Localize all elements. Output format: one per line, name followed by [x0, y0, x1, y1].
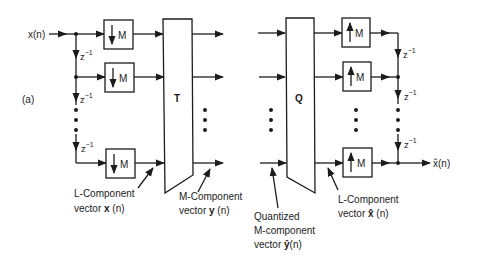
svg-text:z−1: z−1	[80, 92, 93, 105]
upsampler-dots	[354, 108, 358, 132]
svg-text:z−1: z−1	[403, 47, 416, 60]
transform-outputs	[192, 34, 223, 163]
svg-text:vector x̂ (n): vector x̂ (n)	[338, 208, 389, 219]
svg-text:Quantized: Quantized	[254, 211, 300, 222]
svg-text:M: M	[357, 158, 365, 169]
svg-text:M-component: M-component	[254, 225, 315, 236]
upsampler-row-last: M	[315, 148, 398, 177]
quantizer-block: Q	[286, 18, 315, 193]
panel-label: (a)	[22, 94, 34, 105]
input-signal-label: x(n)	[28, 29, 45, 40]
svg-text:M: M	[118, 30, 126, 41]
downsampler-row-1: M	[76, 20, 163, 49]
svg-text:z−1: z−1	[81, 141, 94, 154]
downsampler-row-2: M	[76, 63, 164, 92]
svg-text:M: M	[120, 159, 128, 170]
transform-block: T	[163, 19, 193, 193]
svg-text:L-Component: L-Component	[74, 188, 135, 199]
svg-text:M: M	[356, 72, 364, 83]
svg-text:vector y (n): vector y (n)	[179, 205, 230, 216]
ellipsis-dot-icon	[74, 118, 78, 122]
synthesis-delay-chain: z−1 z−1 z−1	[396, 33, 417, 165]
svg-text:T: T	[174, 93, 180, 104]
svg-text:M: M	[119, 73, 127, 84]
svg-text:L-Component: L-Component	[338, 194, 399, 205]
svg-text:vector ŷ(n): vector ŷ(n)	[254, 239, 302, 250]
svg-text:z−1: z−1	[404, 137, 417, 150]
analysis-delay-chain: z−1 z−1 z−1	[74, 34, 94, 163]
svg-text:z−1: z−1	[80, 49, 93, 62]
input-section: x(n)	[28, 29, 78, 40]
ellipsis-dot-icon	[74, 128, 78, 132]
upsampler-row-1: M	[314, 18, 398, 47]
svg-text:vector x (n): vector x (n)	[74, 203, 125, 214]
svg-text:Q: Q	[295, 93, 303, 104]
svg-text:z−1: z−1	[404, 89, 417, 102]
transform-coding-block-diagram: (a) x(n) z−1 z−1 z−1 M M	[0, 0, 477, 268]
output-section: x̂(n)	[398, 158, 450, 169]
ellipsis-dot-icon	[74, 108, 78, 112]
quantizer-inputs	[258, 33, 286, 163]
downsampler-row-last: M	[76, 149, 164, 178]
upsampler-row-2: M	[315, 62, 398, 91]
svg-text:M: M	[355, 28, 363, 39]
svg-text:M-Component: M-Component	[179, 191, 243, 202]
output-signal-label: x̂(n)	[433, 158, 450, 169]
